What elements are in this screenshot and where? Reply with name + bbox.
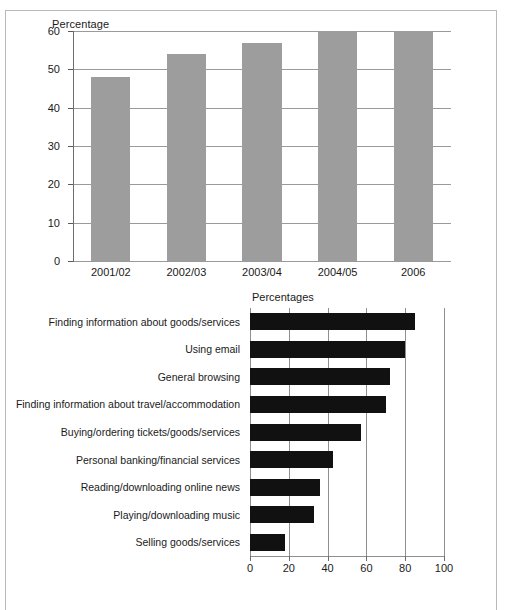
top-chart-bars (73, 31, 451, 261)
bottom-chart-bar (250, 368, 390, 385)
bottom-chart-x-tick-label: 40 (321, 563, 333, 574)
bottom-chart-plot-area (250, 308, 444, 556)
bottom-chart-x-tick (405, 556, 406, 561)
bottom-chart-x-tick-label: 60 (360, 563, 372, 574)
top-chart-x-tick-label: 2006 (375, 266, 451, 278)
bottom-chart-category-label: General browsing (158, 372, 240, 383)
bottom-chart-gridline (405, 308, 406, 556)
top-chart-bar-column (167, 31, 206, 261)
bottom-chart-x-tick (366, 556, 367, 561)
bottom-chart-x-tick-label: 100 (435, 563, 453, 574)
top-chart-bar (167, 54, 206, 261)
bottom-chart-category-label: Reading/downloading online news (81, 482, 240, 493)
bottom-chart-gridline (444, 308, 445, 556)
bottom-chart-bar (250, 506, 314, 523)
bottom-chart-category-label: Playing/downloading music (113, 509, 240, 520)
top-chart-y-tick-label: 10 (20, 217, 69, 228)
top-chart-bar-column (394, 31, 433, 261)
bottom-chart-x-tick (328, 556, 329, 561)
top-chart-bar (394, 31, 433, 261)
top-chart-y-tick-label: 20 (20, 179, 69, 190)
bottom-chart-x-tick (289, 556, 290, 561)
bottom-chart-x-axis-ticks: 020406080100 (250, 556, 445, 578)
chart-internet-access-over-time: Percentage 0102030405060 2001/022002/032… (0, 0, 492, 290)
bottom-chart-bar (250, 341, 405, 358)
bottom-chart-bar (250, 396, 386, 413)
top-chart-y-tick-label: 30 (20, 141, 69, 152)
bottom-chart-bar (250, 424, 361, 441)
bottom-chart-x-tick-label: 20 (283, 563, 295, 574)
bottom-chart-x-tick-label: 80 (399, 563, 411, 574)
top-chart-bar-column (318, 31, 357, 261)
top-chart-x-axis-labels: 2001/022002/032003/042004/052006 (73, 266, 451, 286)
bottom-chart-title: Percentages (252, 291, 314, 303)
bottom-chart-category-label: Using email (185, 344, 240, 355)
bottom-chart-x-tick (250, 556, 251, 561)
top-chart-bar (318, 31, 357, 261)
bottom-chart-bar (250, 313, 415, 330)
bottom-chart-category-label: Selling goods/services (136, 537, 240, 548)
top-chart-gridline (73, 261, 451, 262)
top-chart-y-tick-label: 0 (20, 256, 69, 267)
bottom-chart-category-label: Personal banking/financial services (76, 454, 240, 465)
top-chart-x-tick-label: 2003/04 (224, 266, 300, 278)
top-chart-x-tick-label: 2004/05 (300, 266, 376, 278)
bottom-chart-bar (250, 534, 285, 551)
bottom-chart-bar (250, 451, 333, 468)
bottom-chart-x-tick (444, 556, 445, 561)
top-chart-x-tick-label: 2002/03 (149, 266, 225, 278)
bottom-chart-category-label: Finding information about goods/services (49, 317, 240, 328)
top-chart-bar-column (91, 31, 130, 261)
bottom-chart-category-label: Finding information about travel/accommo… (16, 399, 240, 410)
top-chart-y-tick-label: 60 (20, 26, 69, 37)
chart-internet-activities: Percentages Finding information about go… (0, 290, 492, 592)
bottom-chart-x-tick-label: 0 (247, 563, 253, 574)
top-chart-bar (91, 77, 130, 261)
bottom-chart-category-labels: Finding information about goods/services… (0, 308, 246, 556)
top-chart-bar (242, 43, 281, 262)
top-chart-y-tick-label: 40 (20, 102, 69, 113)
bottom-chart-bar (250, 479, 320, 496)
top-chart-y-tick-label: 50 (20, 64, 69, 75)
top-chart-bar-column (242, 31, 281, 261)
bottom-chart-category-label: Buying/ordering tickets/goods/services (61, 427, 240, 438)
top-chart-x-tick-label: 2001/02 (73, 266, 149, 278)
